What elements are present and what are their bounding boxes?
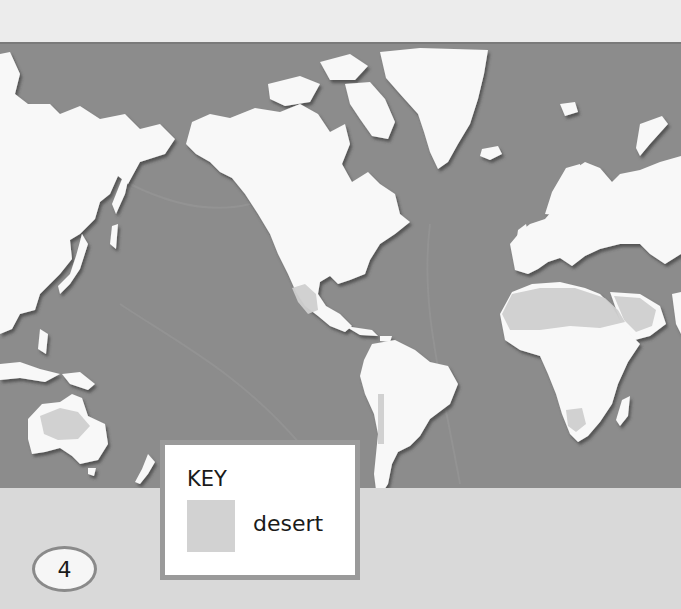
page-header-strip <box>0 0 681 42</box>
key-label-desert: desert <box>253 511 323 536</box>
page-number-badge: 4 <box>32 546 97 592</box>
world-map-svg <box>0 44 681 488</box>
desert-patagonia <box>378 394 384 444</box>
desert-swatch <box>187 500 235 552</box>
key-title: KEY <box>187 467 227 491</box>
map-key: KEY desert <box>160 440 360 580</box>
page-number: 4 <box>58 557 72 582</box>
world-map <box>0 42 681 488</box>
